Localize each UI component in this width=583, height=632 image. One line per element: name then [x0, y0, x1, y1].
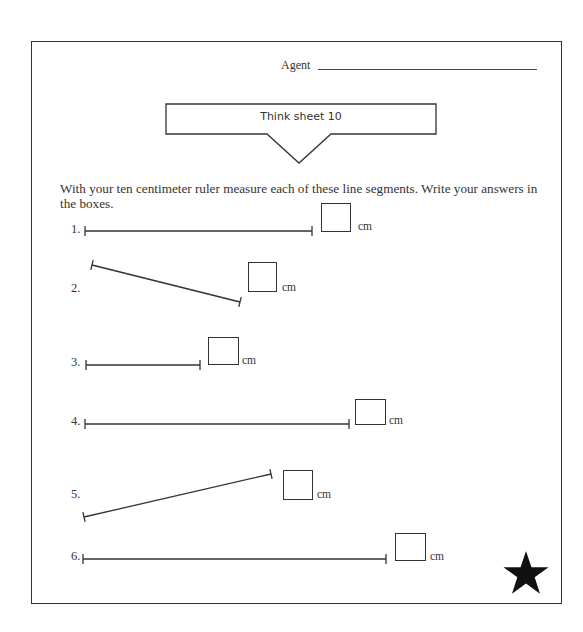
- problem-number-1: 1.: [71, 222, 80, 237]
- segment-6: [83, 554, 386, 564]
- segment-2: [91, 260, 241, 307]
- answer-box-3[interactable]: [208, 337, 239, 365]
- problem-number-3: 3.: [71, 355, 80, 370]
- answer-box-6[interactable]: [395, 533, 426, 561]
- answer-box-2[interactable]: [248, 262, 277, 292]
- problem-number-5: 5.: [71, 487, 80, 502]
- unit-label-3: cm: [242, 354, 256, 366]
- unit-label-2: cm: [282, 281, 296, 293]
- problem-number-6: 6.: [71, 549, 80, 564]
- unit-label-4: cm: [389, 414, 403, 426]
- answer-box-5[interactable]: [283, 470, 313, 500]
- problem-number-2: 2.: [71, 281, 80, 296]
- segment-5: [83, 469, 272, 522]
- unit-label-6: cm: [430, 550, 444, 562]
- sheet-title: Think sheet 10: [166, 110, 436, 123]
- answer-box-4[interactable]: [355, 399, 386, 425]
- unit-label-5: cm: [317, 488, 331, 500]
- segment-3: [86, 360, 200, 370]
- star-icon: [503, 550, 549, 596]
- segment-1: [85, 226, 312, 236]
- answer-box-1[interactable]: [321, 203, 351, 232]
- problem-number-4: 4.: [71, 414, 80, 429]
- drawing-layer: [0, 0, 583, 632]
- instructions-text: With your ten centimeter ruler measure e…: [60, 181, 542, 211]
- segment-4: [85, 419, 349, 429]
- unit-label-1: cm: [358, 220, 372, 232]
